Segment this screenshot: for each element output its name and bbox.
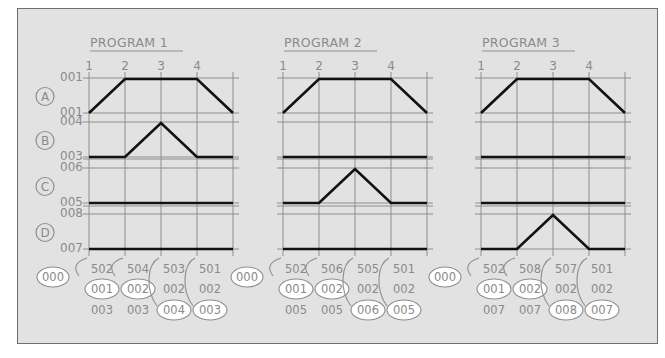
svg-text:000: 000 [434, 270, 456, 284]
step-mid: 002 [199, 282, 221, 296]
step-mid: 002 [519, 282, 541, 296]
step-bottom: 007 [591, 303, 613, 317]
step-labels: 000502001003504002003503002004501002003 [37, 258, 227, 320]
step-code: 505 [357, 262, 379, 276]
leader-line [468, 258, 479, 276]
step-bottom: 005 [321, 303, 343, 317]
program-2: PROGRAM 21234000502001005506002005505002… [231, 35, 433, 320]
step-bottom: 006 [357, 303, 379, 317]
column-number: 2 [121, 59, 129, 73]
row-bottom-value: 007 [60, 241, 83, 255]
column-number: 1 [477, 59, 485, 73]
step-mid: 002 [555, 282, 577, 296]
step-bottom: 003 [199, 303, 221, 317]
step-code: 503 [163, 262, 185, 276]
leader-line [504, 258, 515, 276]
step-bottom: 004 [163, 303, 185, 317]
timing-diagram: A001001B004003C006005D008007PROGRAM 1123… [0, 0, 665, 358]
svg-text:000: 000 [236, 270, 258, 284]
svg-text:C: C [41, 180, 49, 194]
row-label-a: A001001 [36, 70, 83, 119]
step-code: 506 [321, 262, 343, 276]
svg-text:D: D [40, 226, 49, 240]
step-mid: 002 [127, 282, 149, 296]
row-label-c: C006005 [36, 160, 83, 209]
column-number: 3 [157, 59, 165, 73]
step-code: 501 [393, 262, 415, 276]
step-code: 501 [591, 262, 613, 276]
step-mid: 001 [483, 282, 505, 296]
leader-line [270, 258, 281, 276]
step-mid: 002 [357, 282, 379, 296]
row-top-value: 004 [60, 114, 83, 128]
row-label-b: B004003 [36, 114, 83, 163]
row-top-value: 001 [60, 70, 83, 84]
program-title: PROGRAM 1 [90, 35, 168, 50]
leader-line [577, 258, 587, 306]
step-mid: 002 [321, 282, 343, 296]
column-number: 1 [279, 59, 287, 73]
step-mid: 002 [393, 282, 415, 296]
step-code: 502 [91, 262, 113, 276]
column-number: 3 [351, 59, 359, 73]
column-number: 3 [549, 59, 557, 73]
program-title: PROGRAM 3 [482, 35, 560, 50]
step-mid: 002 [163, 282, 185, 296]
step-bottom: 005 [393, 303, 415, 317]
svg-text:000: 000 [42, 270, 64, 284]
grid [83, 72, 239, 256]
column-number: 2 [315, 59, 323, 73]
step-mid: 001 [91, 282, 113, 296]
step-code: 501 [199, 262, 221, 276]
step-code: 502 [285, 262, 307, 276]
step-code: 507 [555, 262, 577, 276]
step-labels: 000502001007508002007507002008501002007 [429, 258, 619, 320]
svg-text:A: A [41, 90, 50, 104]
column-number: 2 [513, 59, 521, 73]
step-mid: 001 [285, 282, 307, 296]
step-bottom: 007 [483, 303, 505, 317]
step-labels: 000502001005506002005505002006501002005 [231, 258, 421, 320]
step-bottom: 005 [285, 303, 307, 317]
program-3: PROGRAM 31234000502001007508002007507002… [429, 35, 631, 320]
row-label-d: D008007 [36, 206, 83, 255]
leader-line [112, 258, 123, 276]
row-top-value: 008 [60, 206, 83, 220]
grid [475, 72, 631, 256]
step-bottom: 007 [519, 303, 541, 317]
column-number: 4 [585, 59, 593, 73]
leader-line [185, 258, 195, 306]
grid [277, 72, 433, 256]
step-mid: 002 [591, 282, 613, 296]
row-labels: A001001B004003C006005D008007 [36, 70, 83, 255]
leader-line [306, 258, 317, 276]
step-code: 508 [519, 262, 541, 276]
column-number: 1 [85, 59, 93, 73]
step-code: 504 [127, 262, 149, 276]
leader-line [76, 258, 87, 276]
leader-line [379, 258, 389, 306]
column-number: 4 [193, 59, 201, 73]
program-title: PROGRAM 2 [284, 35, 362, 50]
svg-text:B: B [41, 134, 49, 148]
step-bottom: 008 [555, 303, 577, 317]
row-top-value: 006 [60, 160, 83, 174]
step-bottom: 003 [127, 303, 149, 317]
step-code: 502 [483, 262, 505, 276]
step-bottom: 003 [91, 303, 113, 317]
column-number: 4 [387, 59, 395, 73]
